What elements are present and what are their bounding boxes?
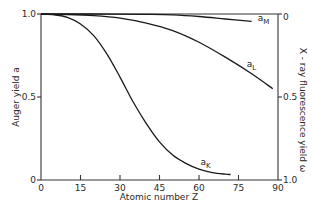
y-right-tick-label: 0.5 bbox=[283, 92, 297, 102]
y-left-tick-label: 1.0 bbox=[22, 9, 37, 19]
curve-a-l bbox=[41, 14, 273, 89]
curve-label-a-k: aK bbox=[201, 157, 212, 170]
curve-a-k bbox=[41, 14, 231, 175]
auger-yield-chart: 015304560759000.51.01.00.50 aKaLaM Atomi… bbox=[0, 0, 314, 213]
x-axis-title: Atomic number Z bbox=[120, 192, 198, 202]
curve-label-a-m: aM bbox=[258, 13, 270, 26]
y-axis-right-title: X - ray fluorescence yield ω bbox=[298, 48, 308, 173]
x-tick-label: 75 bbox=[233, 183, 244, 193]
y-left-tick-label: 0.5 bbox=[22, 92, 36, 102]
y-right-tick-label: 0 bbox=[283, 12, 289, 22]
curves bbox=[41, 14, 273, 175]
axes: 015304560759000.51.01.00.50 bbox=[22, 9, 298, 193]
x-tick-label: 15 bbox=[75, 183, 86, 193]
curve-label-a-l: aL bbox=[247, 59, 257, 72]
curve-labels: aKaLaM bbox=[201, 13, 270, 169]
y-left-tick-label: 0 bbox=[30, 175, 36, 185]
x-tick-label: 0 bbox=[38, 183, 44, 193]
y-right-tick-label: 1.0 bbox=[283, 175, 298, 185]
y-axis-left-title: Auger yield a bbox=[11, 67, 21, 127]
